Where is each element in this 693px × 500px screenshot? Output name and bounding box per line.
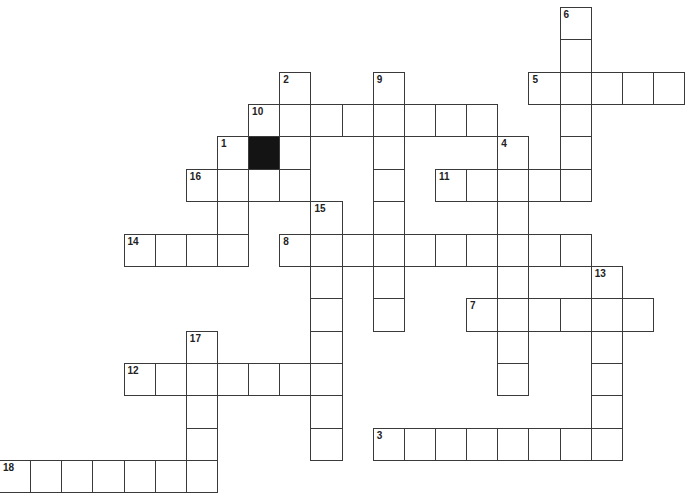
letter-cell[interactable] — [248, 363, 280, 396]
letter-cell[interactable] — [373, 136, 405, 169]
letter-cell[interactable] — [497, 201, 529, 234]
letter-cell[interactable] — [373, 266, 405, 299]
letter-cell[interactable] — [528, 298, 560, 331]
letter-cell[interactable] — [279, 169, 311, 202]
letter-cell[interactable] — [404, 104, 436, 137]
letter-cell[interactable]: 5 — [528, 72, 560, 105]
letter-cell[interactable] — [279, 363, 311, 396]
letter-cell[interactable] — [466, 104, 498, 137]
letter-cell[interactable]: 14 — [124, 234, 156, 267]
letter-cell[interactable] — [310, 363, 342, 396]
letter-cell[interactable] — [310, 331, 342, 364]
letter-cell[interactable]: 1 — [217, 136, 249, 169]
letter-cell[interactable] — [466, 428, 498, 461]
letter-cell[interactable] — [591, 298, 623, 331]
letter-cell[interactable]: 13 — [591, 266, 623, 299]
letter-cell[interactable] — [155, 460, 187, 493]
letter-cell[interactable] — [591, 331, 623, 364]
letter-cell[interactable] — [373, 104, 405, 137]
letter-cell[interactable] — [155, 363, 187, 396]
letter-cell[interactable] — [186, 363, 218, 396]
clue-number: 14 — [128, 237, 139, 247]
letter-cell[interactable]: 12 — [124, 363, 156, 396]
letter-cell[interactable] — [497, 428, 529, 461]
letter-cell[interactable] — [310, 234, 342, 267]
letter-cell[interactable] — [435, 428, 467, 461]
letter-cell[interactable] — [373, 298, 405, 331]
letter-cell[interactable]: 11 — [435, 169, 467, 202]
letter-cell[interactable] — [497, 298, 529, 331]
letter-cell[interactable] — [279, 104, 311, 137]
letter-cell[interactable]: 16 — [186, 169, 218, 202]
clue-number: 6 — [564, 10, 570, 20]
letter-cell[interactable] — [560, 72, 592, 105]
letter-cell[interactable] — [155, 234, 187, 267]
letter-cell[interactable] — [560, 104, 592, 137]
letter-cell[interactable] — [591, 363, 623, 396]
letter-cell[interactable]: 10 — [248, 104, 280, 137]
letter-cell[interactable] — [217, 363, 249, 396]
letter-cell[interactable]: 3 — [373, 428, 405, 461]
letter-cell[interactable] — [342, 234, 374, 267]
letter-cell[interactable] — [30, 460, 62, 493]
letter-cell[interactable] — [528, 169, 560, 202]
letter-cell[interactable] — [497, 169, 529, 202]
letter-cell[interactable] — [61, 460, 93, 493]
letter-cell[interactable]: 2 — [279, 72, 311, 105]
letter-cell[interactable] — [466, 234, 498, 267]
letter-cell[interactable] — [560, 136, 592, 169]
letter-cell[interactable] — [591, 72, 623, 105]
clue-number: 5 — [532, 75, 538, 85]
letter-cell[interactable] — [342, 104, 374, 137]
letter-cell[interactable]: 18 — [0, 460, 31, 493]
letter-cell[interactable] — [560, 298, 592, 331]
letter-cell[interactable] — [217, 234, 249, 267]
letter-cell[interactable]: 6 — [560, 7, 592, 40]
letter-cell[interactable] — [497, 266, 529, 299]
letter-cell[interactable] — [497, 363, 529, 396]
letter-cell[interactable] — [653, 72, 685, 105]
letter-cell[interactable] — [310, 104, 342, 137]
letter-cell[interactable] — [560, 39, 592, 72]
letter-cell[interactable]: 15 — [310, 201, 342, 234]
letter-cell[interactable] — [279, 136, 311, 169]
letter-cell[interactable] — [528, 428, 560, 461]
letter-cell[interactable] — [435, 234, 467, 267]
letter-cell[interactable]: 8 — [279, 234, 311, 267]
letter-cell[interactable] — [217, 201, 249, 234]
letter-cell[interactable] — [591, 395, 623, 428]
letter-cell[interactable] — [466, 169, 498, 202]
letter-cell[interactable] — [186, 428, 218, 461]
letter-cell[interactable] — [186, 234, 218, 267]
letter-cell[interactable] — [560, 169, 592, 202]
letter-cell[interactable] — [186, 395, 218, 428]
letter-cell[interactable]: 7 — [466, 298, 498, 331]
letter-cell[interactable] — [310, 298, 342, 331]
letter-cell[interactable] — [560, 428, 592, 461]
letter-cell[interactable] — [435, 104, 467, 137]
letter-cell[interactable] — [124, 460, 156, 493]
letter-cell[interactable] — [404, 234, 436, 267]
letter-cell[interactable]: 4 — [497, 136, 529, 169]
letter-cell[interactable] — [373, 234, 405, 267]
letter-cell[interactable] — [373, 201, 405, 234]
letter-cell[interactable] — [310, 266, 342, 299]
letter-cell[interactable]: 9 — [373, 72, 405, 105]
letter-cell[interactable] — [622, 298, 654, 331]
letter-cell[interactable] — [217, 169, 249, 202]
letter-cell[interactable] — [373, 169, 405, 202]
clue-number: 17 — [190, 334, 201, 344]
letter-cell[interactable] — [248, 169, 280, 202]
letter-cell[interactable] — [404, 428, 436, 461]
letter-cell[interactable] — [497, 234, 529, 267]
letter-cell[interactable] — [310, 428, 342, 461]
letter-cell[interactable] — [92, 460, 124, 493]
letter-cell[interactable] — [622, 72, 654, 105]
letter-cell[interactable] — [560, 234, 592, 267]
letter-cell[interactable] — [186, 460, 218, 493]
letter-cell[interactable] — [497, 331, 529, 364]
letter-cell[interactable]: 17 — [186, 331, 218, 364]
letter-cell[interactable] — [528, 234, 560, 267]
letter-cell[interactable] — [310, 395, 342, 428]
letter-cell[interactable] — [591, 428, 623, 461]
